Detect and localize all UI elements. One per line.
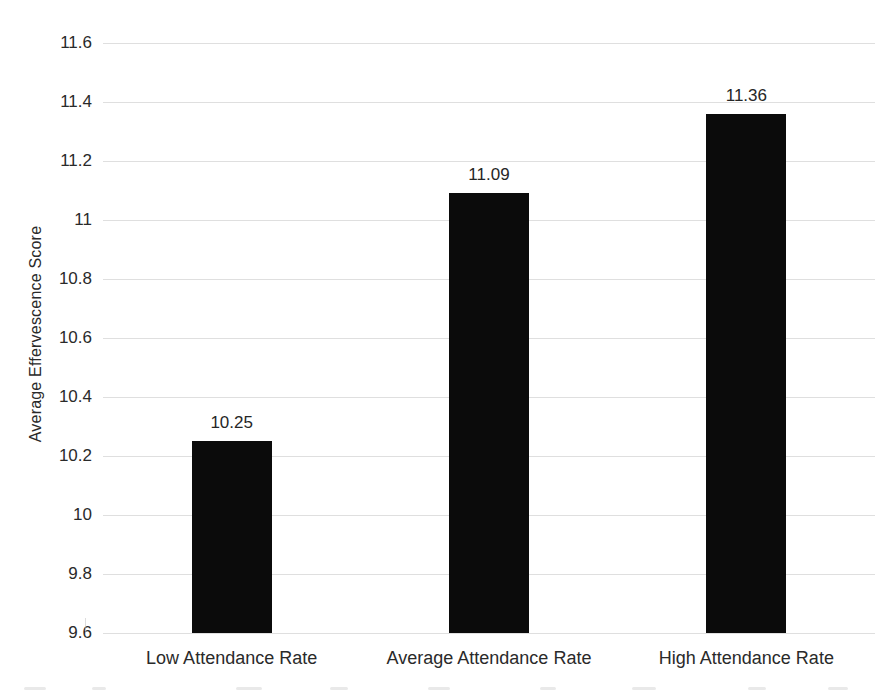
- scan-artifact-mark: [330, 687, 348, 690]
- bar-high-attendance-rate: [706, 114, 786, 633]
- y-tick-label: 10.4: [0, 387, 92, 407]
- y-tick-label: 11: [0, 210, 92, 230]
- scan-artifact-mark: [632, 687, 656, 690]
- category-label-high-attendance-rate: High Attendance Rate: [659, 647, 834, 669]
- category-label-average-attendance-rate: Average Attendance Rate: [387, 647, 592, 669]
- scan-artifact-mark: [92, 687, 106, 690]
- scan-artifact-mark: [540, 687, 556, 690]
- y-tick-label: 10.2: [0, 446, 92, 466]
- bar-low-attendance-rate: [192, 441, 272, 633]
- x-axis-category-labels: Low Attendance RateAverage Attendance Ra…: [103, 643, 875, 677]
- y-tick-label: 10: [0, 505, 92, 525]
- category-label-low-attendance-rate: Low Attendance Rate: [146, 647, 317, 669]
- bar-value-label: 10.25: [210, 413, 253, 433]
- y-tick-label: 9.6: [0, 623, 92, 643]
- y-tick-label: 11.4: [0, 92, 92, 112]
- gridline: [103, 43, 875, 44]
- scan-artifact-mark: [828, 687, 848, 690]
- bar-value-label: 11.09: [468, 165, 509, 185]
- plot-area: 10.2511.0911.36: [103, 43, 875, 633]
- y-tick-label: 10.6: [0, 328, 92, 348]
- y-tick-label: 11.2: [0, 151, 92, 171]
- bar-average-attendance-rate: [449, 193, 529, 633]
- scan-artifact-mark: [748, 687, 766, 690]
- bar-value-label: 11.36: [726, 86, 767, 106]
- y-tick-label: 11.6: [0, 33, 92, 53]
- bar-chart-figure: Average Effervescence Score 9.69.81010.2…: [0, 0, 889, 692]
- scan-artifact-mark: [236, 687, 262, 690]
- y-tick-label: 9.8: [0, 564, 92, 584]
- scan-artifact-mark: [428, 687, 450, 690]
- y-tick-label: 10.8: [0, 269, 92, 289]
- y-axis-tick-labels: 9.69.81010.210.410.610.81111.211.411.6: [0, 0, 92, 692]
